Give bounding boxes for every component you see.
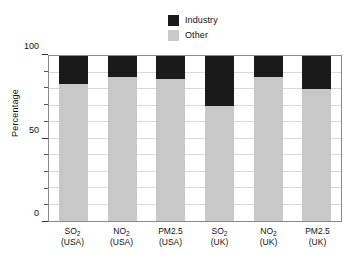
stacked-bar[interactable] <box>205 56 234 221</box>
x-axis-label-subscript: 2 <box>224 230 228 237</box>
x-axis-label-pollutant: NO2 <box>113 226 129 236</box>
chart-figure: Industry Other Percentage 050100 SO2(USA… <box>0 0 349 265</box>
stacked-bar[interactable] <box>59 56 88 221</box>
x-axis-label: NO2(USA) <box>97 226 146 248</box>
x-axis-label-region: (USA) <box>97 237 146 248</box>
bar-segment-other[interactable] <box>108 77 137 221</box>
x-axis-label-region: (UK) <box>195 237 244 248</box>
stacked-bar[interactable] <box>254 56 283 221</box>
bar-segment-industry[interactable] <box>156 56 185 79</box>
x-axis-label-region: (USA) <box>146 237 195 248</box>
stacked-bar[interactable] <box>302 56 331 221</box>
bar-segment-industry[interactable] <box>108 56 137 77</box>
x-axis-label-region: (UK) <box>244 237 293 248</box>
plot-area <box>48 55 342 222</box>
legend-swatch-industry <box>168 15 179 26</box>
x-axis-label: PM2.5(UK) <box>293 226 342 248</box>
bar-segment-other[interactable] <box>59 84 88 221</box>
y-axis-tick-label: 100 <box>24 42 39 51</box>
x-axis-label-pollutant: PM2.5 <box>158 226 183 236</box>
y-axis-title-text: Percentage <box>10 88 20 136</box>
stacked-bar[interactable] <box>156 56 185 221</box>
bar-slot <box>49 56 98 221</box>
x-axis-label-region: (UK) <box>293 237 342 248</box>
x-axis-label: SO2(UK) <box>195 226 244 248</box>
bar-segment-other[interactable] <box>156 79 185 221</box>
bar-slot <box>292 56 341 221</box>
bar-slot <box>98 56 147 221</box>
x-axis-label-subscript: 2 <box>273 230 277 237</box>
bar-segment-industry[interactable] <box>254 56 283 77</box>
bar-segment-industry[interactable] <box>302 56 331 89</box>
bar-slot <box>195 56 244 221</box>
bar-segment-other[interactable] <box>205 106 234 222</box>
legend-label-other: Other <box>185 30 208 41</box>
x-axis-label: PM2.5(USA) <box>146 226 195 248</box>
y-axis-title: Percentage <box>8 0 22 225</box>
x-axis-label-subscript: 2 <box>77 230 81 237</box>
bar-slot <box>244 56 293 221</box>
legend-item-industry: Industry <box>168 14 218 26</box>
x-axis-label: SO2(USA) <box>48 226 97 248</box>
legend-item-other: Other <box>168 29 218 41</box>
y-axis-tick-label: 50 <box>29 126 39 135</box>
bar-segment-other[interactable] <box>254 77 283 221</box>
bar-slot <box>146 56 195 221</box>
x-axis-label-pollutant: SO2 <box>65 226 81 236</box>
x-axis-label-pollutant: SO2 <box>212 226 228 236</box>
stacked-bar[interactable] <box>108 56 137 221</box>
bar-segment-industry[interactable] <box>205 56 234 106</box>
bar-group <box>49 56 341 221</box>
y-axis-tick-label: 0 <box>34 209 39 218</box>
x-axis-label-pollutant: PM2.5 <box>305 226 330 236</box>
x-axis-label-pollutant: NO2 <box>260 226 276 236</box>
legend-swatch-other <box>168 30 179 41</box>
x-axis-label-region: (USA) <box>48 237 97 248</box>
chart-legend: Industry Other <box>168 14 218 41</box>
legend-label-industry: Industry <box>185 15 218 26</box>
bar-segment-other[interactable] <box>302 89 331 221</box>
x-axis-labels: SO2(USA)NO2(USA)PM2.5(USA)SO2(UK)NO2(UK)… <box>48 226 342 248</box>
x-axis-label-subscript: 2 <box>126 230 130 237</box>
x-axis-label: NO2(UK) <box>244 226 293 248</box>
bar-segment-industry[interactable] <box>59 56 88 84</box>
